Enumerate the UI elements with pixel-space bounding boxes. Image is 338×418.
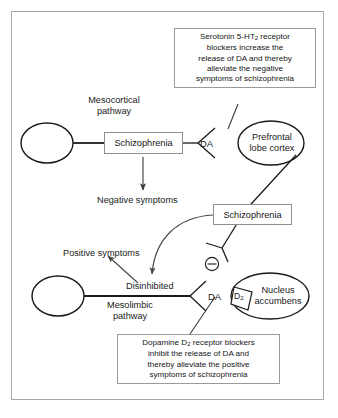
da-fork-bottom-upper [190,281,206,296]
serotonin-note-line5: symptoms of schizophrenia [178,74,312,84]
serotonin-note-line2: blockers increase the [178,43,312,53]
mesocortical-label-line1: Mesocortical [74,95,154,106]
da-fork-bottom-lower [190,296,206,311]
nucleus-accumbens-label: Nucleus accumbens [250,285,306,307]
mesolimbic-pathway-label: Mesolimbic pathway [93,300,167,322]
serotonin-note-leader [228,104,238,129]
schizophrenia-bottom-label: Schizophrenia [223,210,281,220]
schizophrenia-to-disinhibited-curve [152,215,213,274]
serotonin-annotation-box: Serotonin 5-HT2 receptor blockers increa… [174,28,316,88]
dopamine-note-leader [190,297,215,334]
disinhibited-label: Disinhibited [126,281,174,292]
prefrontal-label-line2: lobe cortex [244,143,300,154]
da-label-bottom: DA [208,291,221,302]
serotonin-note-line4: alleviate the negative [178,64,312,74]
prefrontal-label-line1: Prefrontal [244,132,300,143]
serotonin-note-line1: Serotonin 5-HT2 receptor [178,32,312,43]
receptor-symbol-left-arm [206,243,222,248]
dopamine-note-line1-suffix: receptor blockers [190,338,254,347]
mesolimbic-label-line2: pathway [93,311,167,322]
d2-receptor-subscript: 2 [240,294,243,301]
negative-symptoms-label: Negative symptoms [97,195,178,206]
mesocortical-neuron-soma [21,123,73,163]
serotonin-note-line1-prefix: Serotonin 5-HT [200,32,255,41]
prefrontal-lobe-cortex-label: Prefrontal lobe cortex [244,132,300,154]
mesolimbic-label-line1: Mesolimbic [93,300,167,311]
schizophrenia-box-top[interactable]: Schizophrenia [104,132,183,154]
nucleus-label-line2: accumbens [250,296,306,307]
dopamine-note-line4: symptoms of schizophrenia [121,370,276,380]
dopamine-annotation-box: Dopamine D2 receptor blockers inhibit th… [117,334,280,384]
da-label-top: DA [200,138,213,149]
dopamine-note-line1-prefix: Dopamine D [142,338,187,347]
mesolimbic-neuron-soma [32,276,84,316]
receptor-symbol-stem [222,222,238,248]
mesocortical-pathway-label: Mesocortical pathway [74,95,154,117]
schizophrenia-box-bottom[interactable]: Schizophrenia [213,204,292,225]
figure-canvas: Mesocortical pathway Schizophrenia Negat… [0,0,338,418]
dopamine-note-line1: Dopamine D2 receptor blockers [121,338,276,349]
positive-symptoms-arrow [108,256,138,283]
nucleus-label-line1: Nucleus [250,285,306,296]
dopamine-note-line3: thereby alleviate the positive [121,360,276,370]
dopamine-note-line2: inhibit the release of DA and [121,349,276,359]
serotonin-note-line3: release of DA and thereby [178,54,312,64]
serotonin-note-line1-suffix: receptor [258,32,290,41]
mesocortical-label-line2: pathway [74,106,154,117]
schizophrenia-top-label: Schizophrenia [114,138,172,148]
d2-receptor-label: D2 [234,291,244,303]
positive-symptoms-label: Positive symptoms [63,248,140,259]
receptor-symbol-right-arm [222,248,228,262]
